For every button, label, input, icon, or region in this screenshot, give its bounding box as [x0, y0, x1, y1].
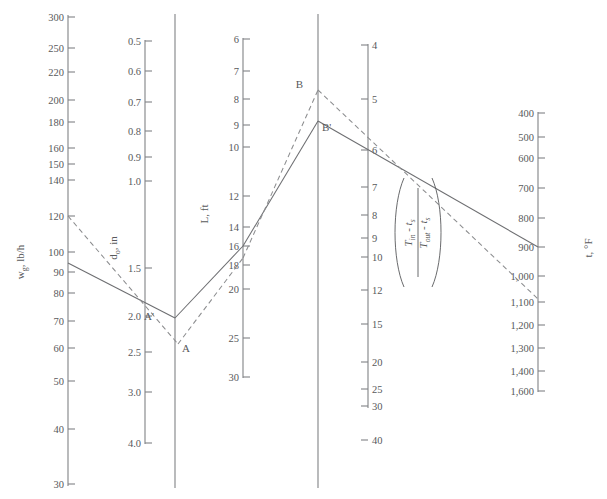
tick-label-t: 700 — [518, 183, 534, 194]
tick-label-wg: 60 — [54, 343, 65, 354]
svg-text:Tin - ts: Tin - ts — [402, 219, 417, 246]
tick-label-ratio: 12 — [372, 285, 383, 296]
tick-label-wg: 80 — [54, 288, 65, 299]
tick-label-t: 800 — [518, 213, 534, 224]
tick-label-wg: 150 — [48, 159, 64, 170]
point-a-label: A — [182, 342, 190, 354]
axis-title-d-rest: , in — [107, 236, 119, 251]
axis-title-wg-rest: , lb/h — [14, 244, 26, 267]
tick-label-t: 1,600 — [510, 386, 534, 397]
isopleth-dashed-segment — [178, 258, 243, 344]
tick-label-wg: 300 — [48, 12, 64, 23]
tick-label-ratio: 30 — [372, 401, 383, 412]
tick-label-L: 30 — [229, 372, 240, 383]
tick-label-ratio: 9 — [372, 233, 377, 244]
isopleth-dashed-segment — [68, 216, 178, 344]
axis-d — [145, 40, 152, 444]
point-b-prime-label: B' — [322, 121, 331, 133]
ratio-den-rest: - t — [417, 220, 429, 233]
axis-ratio — [361, 44, 368, 440]
axis-title-L: L, ft — [198, 205, 210, 224]
tick-label-wg: 50 — [54, 376, 65, 387]
tick-label-L: 12 — [229, 191, 240, 202]
ratio-num-sub2: s — [408, 219, 417, 222]
point-a-prime-label: A' — [144, 310, 154, 322]
axis-title-ratio: Tin - ts Tout - ts — [395, 178, 441, 287]
tick-label-L: 7 — [234, 66, 239, 77]
point-b-label: B — [296, 78, 303, 90]
nomograph-figure: 3002502202001801601501401201009080706050… — [0, 0, 607, 499]
tick-label-d: 3.0 — [128, 387, 141, 398]
axis-titles-group: wg, lb/h do, in L, ft t, °F — [14, 178, 594, 287]
axis-title-wg: wg, lb/h — [14, 244, 29, 279]
svg-text:wg, lb/h: wg, lb/h — [14, 244, 29, 279]
tick-label-ratio: 7 — [372, 182, 377, 193]
tick-label-ratio: 20 — [372, 357, 383, 368]
isopleth-solid-segment — [68, 263, 175, 318]
axis-title-t: t, °F — [582, 238, 594, 257]
ratio-denominator: Tout - ts — [417, 217, 432, 248]
isopleth-solid-segment — [243, 121, 318, 246]
tick-label-L: 14 — [229, 222, 240, 233]
tick-label-d: 2.5 — [128, 347, 141, 358]
axis-title-t-text: t, °F — [582, 238, 594, 257]
tick-label-L: 6 — [234, 34, 239, 45]
tick-label-ratio: 5 — [372, 94, 377, 105]
tick-label-L: 25 — [229, 333, 240, 344]
tick-label-d: 2.0 — [128, 311, 141, 322]
tick-label-d: 0.8 — [128, 126, 141, 137]
tick-label-ratio: 10 — [372, 252, 383, 263]
tick-label-d: 4.0 — [128, 438, 141, 449]
axis-title-d: do, in — [107, 236, 122, 260]
tick-label-d: 0.9 — [128, 152, 141, 163]
tick-label-ratio: 4 — [372, 40, 378, 51]
tick-label-L: 16 — [229, 241, 240, 252]
tick-label-t: 500 — [518, 132, 534, 143]
ratio-numerator: Tin - ts — [402, 219, 417, 246]
tick-label-L: 9 — [234, 120, 239, 131]
tick-label-d: 0.7 — [128, 97, 141, 108]
tick-label-t: 1,100 — [510, 297, 534, 308]
axis-L — [243, 38, 250, 378]
ratio-paren-right — [432, 178, 441, 287]
axis-t — [538, 112, 545, 392]
tick-label-d: 1.0 — [128, 176, 141, 187]
tick-label-L: 8 — [234, 94, 239, 105]
tick-label-wg: 70 — [54, 316, 65, 327]
tick-label-wg: 100 — [48, 247, 64, 258]
isopleth-solid — [68, 121, 538, 318]
axis-wg — [68, 15, 75, 486]
tick-label-L: 18 — [229, 260, 240, 271]
isopleth-dashed-segment — [318, 90, 538, 299]
tick-label-wg: 220 — [48, 67, 64, 78]
tick-label-L: 10 — [229, 142, 240, 153]
tick-label-d: 1.5 — [128, 263, 141, 274]
tick-label-d: 0.5 — [128, 36, 141, 47]
tick-label-ratio: 8 — [372, 210, 377, 221]
axes-group — [68, 15, 545, 486]
tick-label-wg: 180 — [48, 117, 64, 128]
tick-label-ratio: 25 — [372, 384, 383, 395]
tick-label-t: 1,400 — [510, 366, 534, 377]
axis-title-L-text: L, ft — [198, 205, 210, 224]
tick-label-wg: 140 — [48, 175, 64, 186]
tick-label-ratio: 15 — [372, 319, 383, 330]
isopleth-solid-segment — [175, 246, 243, 318]
tick-label-t: 1,200 — [510, 320, 534, 331]
ratio-den-sub2: s — [423, 217, 432, 220]
tick-label-t: 600 — [518, 153, 534, 164]
svg-text:Tout - ts: Tout - ts — [417, 217, 432, 248]
tick-label-wg: 160 — [48, 143, 64, 154]
tick-label-wg: 250 — [48, 43, 64, 54]
tick-label-t: 400 — [518, 108, 534, 119]
tick-label-wg: 90 — [54, 267, 65, 278]
svg-text:do, in: do, in — [107, 236, 122, 260]
axis-title-wg-main: w — [14, 271, 26, 279]
tick-label-wg: 40 — [54, 424, 65, 435]
tick-label-ratio: 40 — [372, 435, 383, 446]
ratio-num-rest: - t — [402, 221, 414, 234]
isopleth-dashed-segment — [243, 90, 318, 258]
tick-label-t: 1,000 — [510, 271, 534, 282]
tick-label-d: 0.6 — [128, 66, 141, 77]
tick-label-wg: 120 — [48, 211, 64, 222]
